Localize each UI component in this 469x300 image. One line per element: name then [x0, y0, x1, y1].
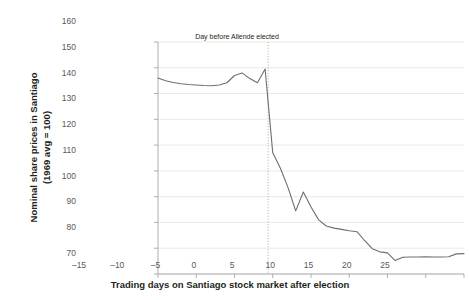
chart-annotation-label: Day before Allende elected — [195, 33, 279, 40]
